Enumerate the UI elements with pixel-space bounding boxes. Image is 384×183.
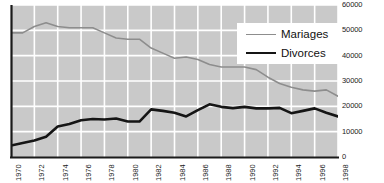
y-axis-tick-label: 40000 — [342, 52, 362, 60]
legend-label-divorces: Divorces — [281, 47, 326, 59]
y-axis-tick-label: 10000 — [342, 128, 362, 136]
y-axis-tick-label: 0 — [342, 153, 346, 161]
x-axis-tick-label: 1984 — [179, 164, 187, 181]
chart-title-cropped — [0, 0, 384, 2]
x-axis-tick-label: 1972 — [38, 164, 46, 181]
y-axis-tick-label: 20000 — [342, 102, 362, 110]
y-axis-tick-label: 60000 — [342, 1, 362, 9]
x-axis-tick-label: 1980 — [132, 164, 140, 181]
x-axis-tick-label: 1988 — [225, 164, 233, 181]
x-axis-tick-label: 1990 — [249, 164, 257, 181]
x-axis-tick-label: 1986 — [202, 164, 210, 181]
chart-container: 6000050000400003000020000100000 19701972… — [0, 0, 384, 183]
legend-item-divorces: Divorces — [237, 43, 338, 63]
x-axis-tick-label: 1976 — [85, 164, 93, 181]
legend-swatch-divorces-icon — [246, 52, 276, 54]
x-axis-tick-label: 1974 — [62, 164, 70, 181]
x-axis-tick-label: 1998 — [342, 164, 350, 181]
x-axis-tick-label: 1982 — [155, 164, 163, 181]
x-axis-tick-label: 1992 — [272, 164, 280, 181]
legend-swatch-mariages-icon — [246, 34, 276, 35]
x-axis-tick-label: 1996 — [319, 164, 327, 181]
y-axis-tick-label: 50000 — [342, 26, 362, 34]
y-axis-tick-label: 30000 — [342, 77, 362, 85]
x-axis-tick-label: 1994 — [295, 164, 303, 181]
legend-item-mariages: Mariages — [237, 24, 338, 44]
x-axis-tick-label: 1978 — [108, 164, 116, 181]
chart-legend: Mariages Divorces — [237, 23, 338, 64]
legend-label-mariages: Mariages — [281, 28, 328, 40]
x-axis-tick-label: 1970 — [15, 164, 23, 181]
